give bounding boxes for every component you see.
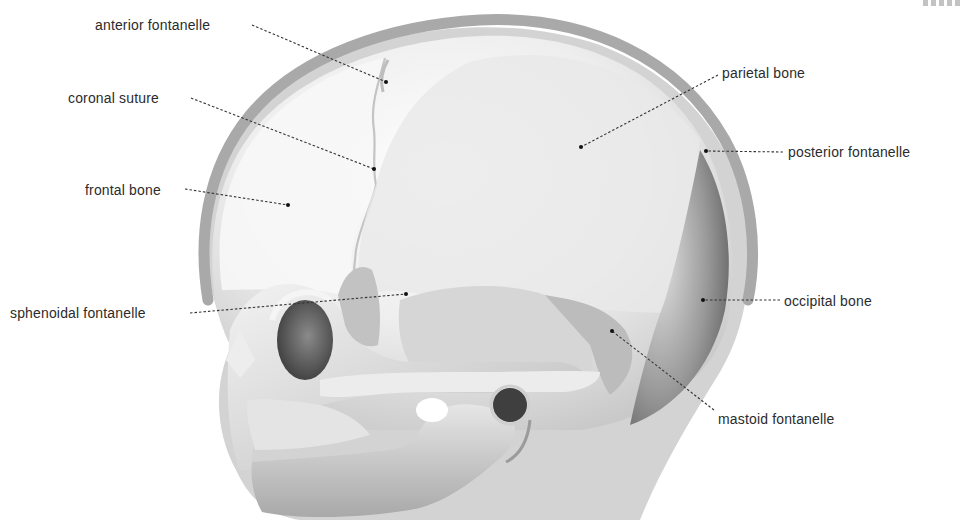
leader-dot-frontal-bone — [286, 203, 290, 207]
leader-dot-sphenoidal-fontanelle — [404, 292, 408, 296]
leader-dot-anterior-fontanelle — [384, 80, 388, 84]
orbit — [277, 300, 333, 380]
leader-dot-coronal-suture — [372, 167, 376, 171]
label-anterior-fontanelle: anterior fontanelle — [95, 16, 210, 34]
skull-diagram: anterior fontanelle coronal suture front… — [0, 0, 967, 524]
label-sphenoidal-fontanelle: sphenoidal fontanelle — [10, 304, 146, 322]
label-mastoid-fontanelle: mastoid fontanelle — [718, 410, 834, 428]
label-parietal-bone: parietal bone — [722, 64, 805, 82]
skull-illustration — [0, 0, 967, 524]
leader-dot-posterior-fontanelle — [704, 149, 708, 153]
leader-dot-mastoid-fontanelle — [610, 329, 614, 333]
label-posterior-fontanelle: posterior fontanelle — [788, 143, 910, 161]
corner-mark — [923, 0, 963, 6]
ear-canal — [493, 388, 527, 422]
leader-dot-occipital-bone — [701, 298, 705, 302]
mandibular-notch — [416, 398, 448, 422]
leader-dot-parietal-bone — [579, 145, 583, 149]
label-coronal-suture: coronal suture — [68, 89, 159, 107]
label-occipital-bone: occipital bone — [784, 292, 872, 310]
label-frontal-bone: frontal bone — [85, 181, 161, 199]
